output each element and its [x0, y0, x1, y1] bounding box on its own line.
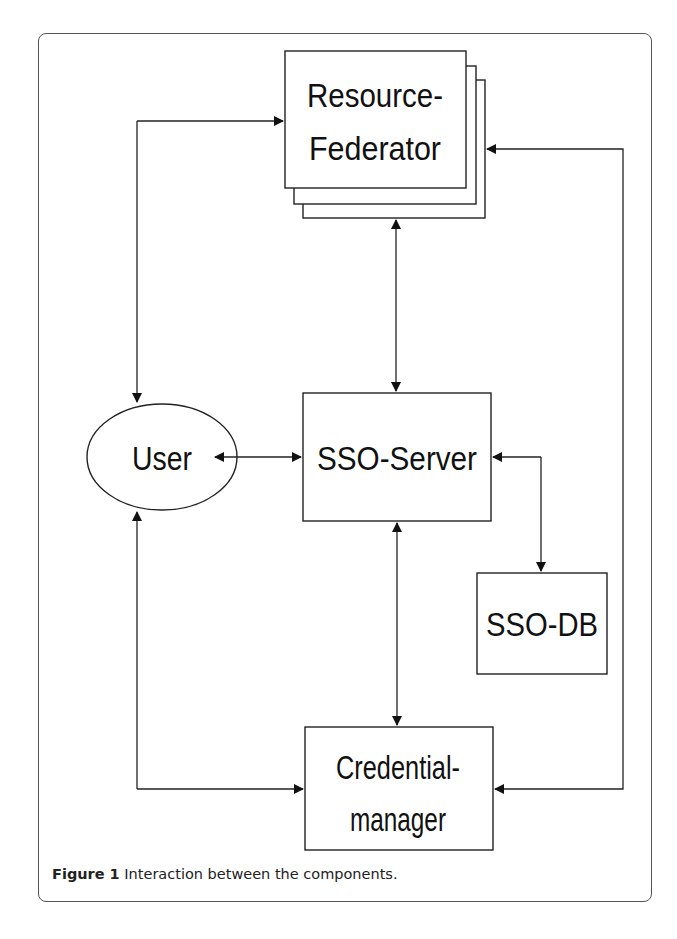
diagram-canvas: Resource- Federator User SSO-Server SSO-… [0, 0, 677, 939]
resource-federator-label-line1: Resource- [307, 76, 443, 114]
figure-caption-label: Figure 1 [52, 866, 120, 882]
edge-cm-rf-up [487, 149, 623, 470]
resource-federator-box [285, 51, 466, 188]
credential-manager-label-line2: manager [350, 800, 446, 838]
user-label: User [132, 439, 192, 477]
sso-db-label: SSO-DB [486, 605, 598, 643]
credential-manager-label-line1: Credential- [336, 748, 460, 786]
figure-caption: Figure 1 Interaction between the compone… [52, 866, 398, 882]
sso-server-label: SSO-Server [317, 439, 477, 477]
figure-caption-text: Interaction between the components. [120, 866, 398, 882]
resource-federator-label-line2: Federator [309, 129, 441, 167]
